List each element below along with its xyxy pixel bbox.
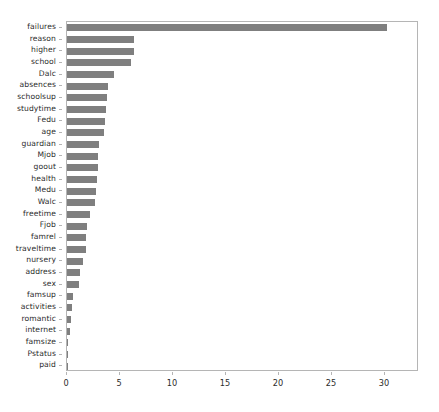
y-tick-mark	[59, 295, 62, 296]
bar-school	[67, 59, 131, 66]
y-tick-label-school: school	[31, 58, 56, 66]
bar-failures	[67, 24, 387, 31]
y-tick-label-famrel: famrel	[31, 233, 56, 241]
bar-Fjob	[67, 223, 87, 230]
bar-row	[67, 246, 417, 253]
bar-age	[67, 129, 104, 136]
y-tick-mark	[59, 365, 62, 366]
bar-row	[67, 339, 417, 346]
y-tick-mark	[59, 144, 62, 145]
y-tick-mark	[59, 354, 62, 355]
y-tick-mark	[59, 342, 62, 343]
bar-Fedu	[67, 118, 105, 125]
y-tick-label-Medu: Medu	[35, 186, 56, 194]
y-tick-mark	[59, 97, 62, 98]
y-tick-label-higher: higher	[31, 46, 56, 54]
x-tick-label-0: 0	[63, 378, 68, 388]
y-tick-mark	[59, 260, 62, 261]
bar-row	[67, 94, 417, 101]
x-tick-label-25: 25	[326, 378, 336, 388]
x-tick-label-30: 30	[379, 378, 389, 388]
y-axis-tick-labels: failuresreasonhigherschoolDalcabsencessc…	[0, 21, 62, 371]
y-tick-label-age: age	[42, 128, 56, 136]
bar-row	[67, 164, 417, 171]
bar-Medu	[67, 188, 96, 195]
y-tick-mark	[59, 319, 62, 320]
x-tick-mark	[119, 372, 120, 375]
y-tick-mark	[59, 249, 62, 250]
bar-famrel	[67, 234, 86, 241]
y-tick-mark	[59, 155, 62, 156]
y-tick-mark	[59, 62, 62, 63]
bar-paid	[67, 363, 68, 370]
plot-axes	[66, 21, 418, 371]
bar-traveltime	[67, 246, 86, 253]
y-tick-mark	[59, 50, 62, 51]
bar-row	[67, 363, 417, 370]
bar-row	[67, 316, 417, 323]
y-tick-label-activities: activities	[21, 303, 56, 311]
y-tick-label-romantic: romantic	[21, 315, 56, 323]
bar-row	[67, 281, 417, 288]
bar-Walc	[67, 199, 95, 206]
bar-row	[67, 351, 417, 358]
y-tick-label-failures: failures	[27, 23, 56, 31]
bar-row	[67, 211, 417, 218]
bar-row	[67, 258, 417, 265]
bar-freetime	[67, 211, 90, 218]
x-tick-label-10: 10	[167, 378, 177, 388]
bar-higher	[67, 48, 134, 55]
y-tick-mark	[59, 85, 62, 86]
y-tick-label-freetime: freetime	[23, 210, 56, 218]
x-tick-label-15: 15	[220, 378, 230, 388]
bar-row	[67, 59, 417, 66]
y-tick-mark	[59, 74, 62, 75]
y-tick-label-guardian: guardian	[22, 140, 56, 148]
x-axis-tick-labels: 051015202530	[0, 372, 439, 394]
bar-famsize	[67, 339, 68, 346]
y-tick-mark	[59, 307, 62, 308]
y-tick-mark	[59, 284, 62, 285]
bar-chart-figure: failuresreasonhigherschoolDalcabsencessc…	[0, 0, 439, 412]
y-tick-mark	[59, 202, 62, 203]
y-tick-label-Walc: Walc	[38, 198, 56, 206]
y-tick-label-reason: reason	[30, 35, 56, 43]
y-tick-label-paid: paid	[39, 361, 56, 369]
bar-guardian	[67, 141, 99, 148]
y-tick-label-Fedu: Fedu	[37, 116, 56, 124]
bar-row	[67, 48, 417, 55]
y-tick-label-schoolsup: schoolsup	[17, 93, 56, 101]
y-tick-label-studytime: studytime	[17, 105, 56, 113]
bar-row	[67, 223, 417, 230]
bar-activities	[67, 304, 72, 311]
y-tick-mark	[59, 109, 62, 110]
bar-row	[67, 141, 417, 148]
y-tick-label-sex: sex	[43, 280, 56, 288]
y-tick-label-nursery: nursery	[26, 256, 56, 264]
y-tick-mark	[59, 225, 62, 226]
bar-Pstatus	[67, 351, 68, 358]
y-tick-mark	[59, 214, 62, 215]
y-tick-mark	[59, 167, 62, 168]
bar-nursery	[67, 258, 83, 265]
y-tick-label-Fjob: Fjob	[40, 221, 56, 229]
bar-row	[67, 24, 417, 31]
y-tick-label-internet: internet	[25, 326, 56, 334]
bar-row	[67, 106, 417, 113]
bar-health	[67, 176, 97, 183]
bar-row	[67, 83, 417, 90]
y-tick-mark	[59, 330, 62, 331]
bar-schoolsup	[67, 94, 107, 101]
x-tick-mark	[172, 372, 173, 375]
bar-reason	[67, 36, 134, 43]
bar-row	[67, 199, 417, 206]
bar-row	[67, 71, 417, 78]
y-tick-mark	[59, 237, 62, 238]
y-tick-label-Pstatus: Pstatus	[28, 350, 56, 358]
bar-sex	[67, 281, 79, 288]
x-tick-label-5: 5	[116, 378, 121, 388]
y-tick-label-famsize: famsize	[26, 338, 56, 346]
bar-row	[67, 188, 417, 195]
bar-famsup	[67, 293, 73, 300]
y-tick-label-traveltime: traveltime	[16, 245, 56, 253]
